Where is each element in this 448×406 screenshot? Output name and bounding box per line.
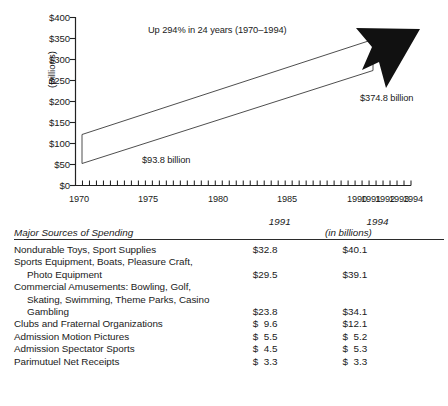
table-title: Major Sources of Spending: [14, 227, 253, 238]
row-label-line-indented: Photo Equipment: [14, 269, 253, 281]
chart-start-value-label: $93.8 billion: [142, 155, 190, 165]
row-label-line: Sports Equipment, Boats, Pleasure Craft,: [14, 256, 253, 268]
table-body: Nondurable Toys, Sport Supplies$32.8$40.…: [14, 244, 444, 368]
row-label: Sports Equipment, Boats, Pleasure Craft,…: [14, 256, 253, 281]
row-label-line: Nondurable Toys, Sport Supplies: [14, 244, 253, 256]
table-header-years: 1991 1994: [14, 216, 444, 227]
spending-growth-chart: $400 $350 $300 $250 $200 $150 $100 $50 $…: [0, 0, 448, 212]
row-value-1991: $29.5: [253, 256, 343, 281]
row-label-line: Clubs and Fraternal Organizations: [14, 318, 253, 330]
row-label-line: Admission Spectator Sports: [14, 343, 253, 355]
table-units-label: (in billions): [253, 227, 444, 238]
x-axis-ticks: [76, 181, 412, 186]
chart-end-value-label: $374.8 billion: [360, 93, 413, 103]
column-header-1991: 1991: [253, 216, 343, 227]
table-row: Admission Spectator Sports$ 4.5$ 5.3: [14, 343, 444, 355]
y-tick-label-400: $400: [26, 12, 70, 23]
row-value-1994: $40.1: [343, 244, 444, 256]
row-value-1991: $ 5.5: [253, 331, 343, 343]
growth-ribbon: [82, 40, 373, 164]
y-tick-label-150: $150: [26, 117, 70, 128]
chart-growth-annotation: Up 294% in 24 years (1970–1994): [148, 25, 287, 35]
row-value-1994: $ 5.2: [343, 331, 444, 343]
row-label: Admission Motion Pictures: [14, 331, 253, 343]
y-tick-label-50: $50: [26, 159, 70, 170]
table-row: Parimutuel Net Receipts$ 3.3$ 3.3: [14, 356, 444, 368]
table-header-title: Major Sources of Spending (in billions): [14, 227, 444, 238]
row-label: Clubs and Fraternal Organizations: [14, 318, 253, 330]
row-value-1994: $ 5.3: [343, 343, 444, 355]
header-divider: [14, 239, 444, 240]
major-sources-table-region: 1991 1994 Major Sources of Spending (in …: [0, 216, 448, 406]
row-value-1991: $ 3.3: [253, 356, 343, 368]
x-tick-label-1994: 1994: [393, 194, 433, 204]
x-tick-label-1975: 1975: [128, 194, 168, 204]
row-label: Parimutuel Net Receipts: [14, 356, 253, 368]
table-row: Admission Motion Pictures$ 5.5$ 5.2: [14, 331, 444, 343]
row-value-1991: $23.8: [253, 281, 343, 318]
x-tick-label-1970: 1970: [59, 194, 99, 204]
table-row: Clubs and Fraternal Organizations$ 9.6$1…: [14, 318, 444, 330]
row-label-line: Parimutuel Net Receipts: [14, 356, 253, 368]
row-value-1991: $32.8: [253, 244, 343, 256]
row-label-line-indented: Gambling: [14, 306, 253, 318]
page-root: $400 $350 $300 $250 $200 $150 $100 $50 $…: [0, 0, 448, 406]
row-value-1994: $12.1: [343, 318, 444, 330]
row-value-1994: $39.1: [343, 256, 444, 281]
x-tick-label-1980: 1980: [198, 194, 238, 204]
y-tick-label-100: $100: [26, 138, 70, 149]
table-row: Sports Equipment, Boats, Pleasure Craft,…: [14, 256, 444, 281]
y-axis-title: (Billions): [46, 32, 57, 108]
x-tick-label-1985: 1985: [267, 194, 307, 204]
row-label: Admission Spectator Sports: [14, 343, 253, 355]
table-row: Nondurable Toys, Sport Supplies$32.8$40.…: [14, 244, 444, 256]
row-value-1994: $ 3.3: [343, 356, 444, 368]
y-tick-label-0: $0: [26, 180, 70, 191]
row-value-1991: $ 9.6: [253, 318, 343, 330]
row-label-line: Commercial Amusements: Bowling, Golf,: [14, 281, 253, 293]
header-spacer: [14, 216, 253, 227]
row-label: Nondurable Toys, Sport Supplies: [14, 244, 253, 256]
major-sources-table: 1991 1994 Major Sources of Spending (in …: [14, 216, 444, 368]
row-value-1994: $34.1: [343, 281, 444, 318]
table-row: Commercial Amusements: Bowling, Golf,Ska…: [14, 281, 444, 318]
row-label-line-indented: Skating, Swimming, Theme Parks, Casino: [14, 294, 253, 306]
row-value-1991: $ 4.5: [253, 343, 343, 355]
y-axis-ticks: [70, 18, 76, 186]
column-header-1994: 1994: [343, 216, 444, 227]
row-label-line: Admission Motion Pictures: [14, 331, 253, 343]
row-label: Commercial Amusements: Bowling, Golf,Ska…: [14, 281, 253, 318]
